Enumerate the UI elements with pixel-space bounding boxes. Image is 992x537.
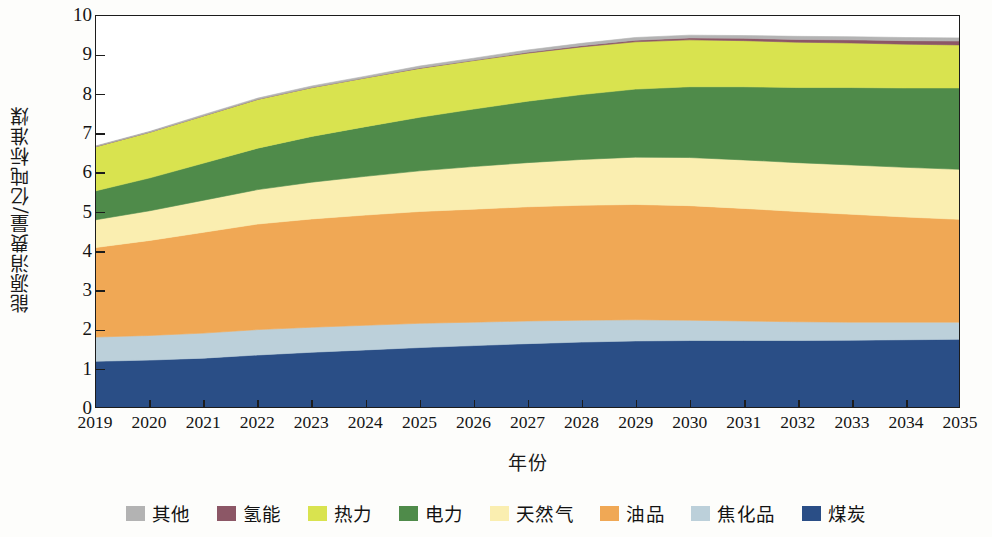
x-tick-label: 2029 [606, 412, 666, 433]
x-tick-mark [257, 400, 259, 407]
y-tick-mark [96, 290, 105, 292]
legend-item[interactable]: 油品 [600, 500, 665, 526]
legend-label: 油品 [626, 500, 665, 526]
y-tick-label: 1 [46, 358, 92, 380]
legend-swatch-icon [600, 506, 619, 521]
legend-swatch-icon [126, 506, 145, 521]
legend-label: 氢能 [243, 500, 282, 526]
y-tick-mark [96, 94, 105, 96]
x-axis-title: 年份 [95, 448, 960, 475]
x-tick-label: 2032 [768, 412, 828, 433]
x-tick-label: 2027 [498, 412, 558, 433]
x-tick-mark [474, 400, 476, 407]
y-tick-label: 9 [46, 43, 92, 65]
y-tick-mark [96, 251, 105, 253]
y-tick-mark [96, 172, 105, 174]
y-tick-mark [96, 55, 105, 57]
x-tick-label: 2035 [930, 412, 990, 433]
x-tick-label: 2021 [173, 412, 233, 433]
legend-item[interactable]: 其他 [126, 500, 191, 526]
legend-label: 电力 [425, 500, 464, 526]
x-axis-tick-labels: 2019202020212022202320242025202620272028… [95, 412, 960, 438]
y-tick-label: 2 [46, 318, 92, 340]
y-tick-mark [96, 330, 105, 332]
legend-swatch-icon [308, 506, 327, 521]
legend-swatch-icon [399, 506, 418, 521]
x-tick-label: 2020 [119, 412, 179, 433]
plot-area [95, 15, 960, 408]
y-tick-label: 5 [46, 201, 92, 223]
x-tick-mark [636, 400, 638, 407]
legend-swatch-icon [217, 506, 236, 521]
x-tick-label: 2026 [443, 412, 503, 433]
x-tick-label: 2019 [65, 412, 125, 433]
area-series-group [96, 16, 959, 407]
y-tick-mark [96, 133, 105, 135]
y-axis-title: 能源消费量/亿吨标准煤 [2, 0, 36, 420]
legend-item[interactable]: 氢能 [217, 500, 282, 526]
y-tick-mark [96, 369, 105, 371]
x-tick-label: 2025 [389, 412, 449, 433]
x-tick-mark [528, 400, 530, 407]
x-tick-mark [149, 400, 151, 407]
legend-label: 其他 [152, 500, 191, 526]
y-tick-label: 4 [46, 240, 92, 262]
x-tick-mark [852, 400, 854, 407]
x-tick-mark [420, 400, 422, 407]
legend-label: 煤炭 [828, 500, 867, 526]
x-axis-title-text: 年份 [508, 452, 548, 474]
y-tick-label: 6 [46, 161, 92, 183]
y-tick-label: 3 [46, 279, 92, 301]
x-tick-label: 2023 [281, 412, 341, 433]
legend-item[interactable]: 电力 [399, 500, 464, 526]
chart-legend: 其他氢能热力电力天然气油品焦化品煤炭 [0, 500, 992, 526]
legend-swatch-icon [802, 506, 821, 521]
y-axis-title-text: 能源消费量/亿吨标准煤 [6, 106, 33, 313]
x-tick-mark [744, 400, 746, 407]
y-tick-mark [96, 212, 105, 214]
legend-label: 热力 [334, 500, 373, 526]
legend-swatch-icon [490, 506, 509, 521]
x-tick-mark [311, 400, 313, 407]
x-tick-mark [582, 400, 584, 407]
legend-swatch-icon [691, 506, 710, 521]
y-tick-label: 10 [46, 4, 92, 26]
x-tick-mark [203, 400, 205, 407]
legend-item[interactable]: 天然气 [490, 500, 575, 526]
x-tick-label: 2034 [876, 412, 936, 433]
x-tick-label: 2033 [822, 412, 882, 433]
stacked-area-chart: 能源消费量/亿吨标准煤 012345678910 201920202021202… [0, 0, 992, 537]
x-tick-label: 2028 [552, 412, 612, 433]
x-tick-label: 2024 [335, 412, 395, 433]
x-tick-label: 2022 [227, 412, 287, 433]
x-tick-label: 2030 [660, 412, 720, 433]
x-tick-mark [798, 400, 800, 407]
legend-item[interactable]: 煤炭 [802, 500, 867, 526]
x-tick-label: 2031 [714, 412, 774, 433]
legend-label: 天然气 [516, 500, 575, 526]
x-tick-mark [366, 400, 368, 407]
y-axis-tick-labels: 012345678910 [40, 0, 92, 537]
y-tick-label: 8 [46, 83, 92, 105]
x-tick-mark [690, 400, 692, 407]
legend-item[interactable]: 热力 [308, 500, 373, 526]
y-tick-label: 7 [46, 122, 92, 144]
x-tick-mark [906, 400, 908, 407]
legend-label: 焦化品 [717, 500, 776, 526]
legend-item[interactable]: 焦化品 [691, 500, 776, 526]
